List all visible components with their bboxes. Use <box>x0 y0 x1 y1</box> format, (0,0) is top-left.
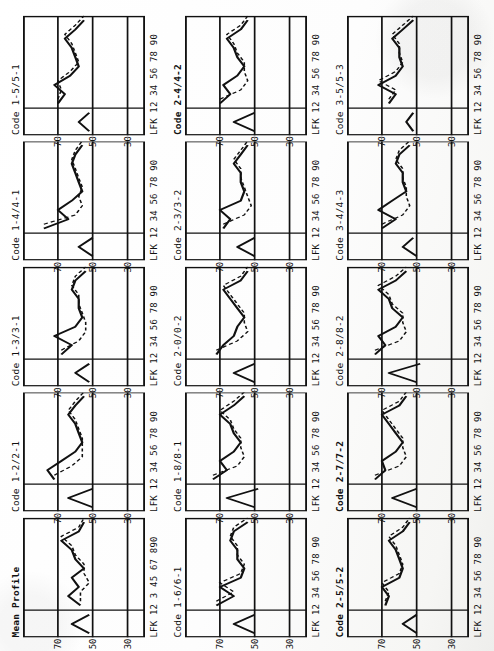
figure-rotated-container: Mean Profile305070LFK 12 3 45 67 890Code… <box>0 0 494 651</box>
panel-title: Code 2-7/7-2 <box>334 440 345 511</box>
chart-panel: Code 2-3/3-2305070LFK 12 34 56 78 90 <box>172 141 322 261</box>
profile-plot <box>23 517 145 637</box>
plot-area <box>185 392 307 512</box>
chart-panel: Code 2-4/4-2305070LFK 12 34 56 78 90 <box>172 15 322 135</box>
plot-area <box>347 517 469 637</box>
panel-title: Mean Profile <box>10 566 21 637</box>
y-tick-label: 50 <box>88 638 97 649</box>
profile-plot <box>23 141 145 261</box>
panel-title: Code 1-4/4-1 <box>10 189 21 260</box>
plot-area <box>23 266 145 386</box>
plot-area <box>23 517 145 637</box>
chart-panel: Code 3-5/5-3305070LFK 12 34 56 78 90 <box>334 15 484 135</box>
chart-panel: Mean Profile305070LFK 12 3 45 67 890 <box>10 517 160 637</box>
plot-area <box>185 517 307 637</box>
profile-plot <box>347 517 469 637</box>
plot-area <box>347 141 469 261</box>
panel-title: Code 1-8/8-1 <box>172 440 183 511</box>
profile-plot <box>185 15 307 135</box>
plot-area <box>347 392 469 512</box>
y-tick-label: 70 <box>215 638 224 649</box>
profile-plot <box>23 15 145 135</box>
plot-area <box>347 266 469 386</box>
profile-plot <box>185 392 307 512</box>
chart-panel: Code 2-5/5-2305070LFK 12 34 56 78 90 <box>334 517 484 637</box>
plot-area <box>23 392 145 512</box>
chart-panel: Code 3-4/4-3305070LFK 12 34 56 78 90 <box>334 141 484 261</box>
x-axis-label: LFK 12 34 56 78 90 <box>149 159 160 260</box>
chart-panel: Code 1-4/4-1305070LFK 12 34 56 78 90 <box>10 141 160 261</box>
y-tick-label: 30 <box>447 638 456 649</box>
chart-panel: Code 1-6/6-1305070LFK 12 34 56 78 90 <box>172 517 322 637</box>
x-axis-label: LFK 12 34 56 78 90 <box>311 33 322 134</box>
profile-plot <box>185 141 307 261</box>
y-tick-label: 70 <box>53 638 62 649</box>
panel-title: Code 2-4/4-2 <box>172 64 183 135</box>
y-tick-label: 70 <box>377 638 386 649</box>
y-tick-label: 30 <box>285 638 294 649</box>
x-axis-label: LFK 12 34 56 78 90 <box>149 33 160 134</box>
chart-panel: Code 1-8/8-1305070LFK 12 34 56 78 90 <box>172 392 322 512</box>
panel-title: Code 2-5/5-2 <box>334 566 345 637</box>
chart-panel: Code 2-7/7-2305070LFK 12 34 56 78 90 <box>334 392 484 512</box>
panel-title: Code 1-2/2-1 <box>10 440 21 511</box>
small-multiples-grid: Mean Profile305070LFK 12 3 45 67 890Code… <box>10 15 484 637</box>
panel-title: Code 2-8/8-2 <box>334 315 345 386</box>
plot-area <box>347 15 469 135</box>
panel-title: Code 2-3/3-2 <box>172 189 183 260</box>
plot-area <box>23 15 145 135</box>
x-axis-label: LFK 12 34 56 78 90 <box>311 159 322 260</box>
chart-panel: Code 2-8/8-2305070LFK 12 34 56 78 90 <box>334 266 484 386</box>
plot-area <box>185 266 307 386</box>
chart-panel: Code 2-0/0-2305070LFK 12 34 56 78 90 <box>172 266 322 386</box>
x-axis-label: LFK 12 34 56 78 90 <box>311 285 322 386</box>
plot-area <box>185 141 307 261</box>
profile-plot <box>185 266 307 386</box>
profile-plot <box>185 517 307 637</box>
panel-title: Code 1-6/6-1 <box>172 566 183 637</box>
panel-title: Code 2-0/0-2 <box>172 315 183 386</box>
profile-plot <box>347 15 469 135</box>
panel-title: Code 3-4/4-3 <box>334 189 345 260</box>
x-axis-label: LFK 12 34 56 78 90 <box>311 536 322 637</box>
x-axis-label: LFK 12 34 56 78 90 <box>311 410 322 511</box>
scanned-page: Mean Profile305070LFK 12 3 45 67 890Code… <box>0 0 494 651</box>
x-axis-label: LFK 12 34 56 78 90 <box>473 159 484 260</box>
profile-plot <box>23 392 145 512</box>
chart-panel: Code 1-5/5-1305070LFK 12 34 56 78 90 <box>10 15 160 135</box>
x-axis-label: LFK 12 3 45 67 890 <box>149 536 160 637</box>
plot-area <box>185 15 307 135</box>
chart-panel: Code 1-2/2-1305070LFK 12 34 56 78 90 <box>10 392 160 512</box>
x-axis-label: LFK 12 34 56 78 90 <box>473 536 484 637</box>
x-axis-label: LFK 12 34 56 78 90 <box>149 285 160 386</box>
profile-plot <box>23 266 145 386</box>
profile-plot <box>347 141 469 261</box>
plot-area <box>23 141 145 261</box>
profile-plot <box>347 392 469 512</box>
x-axis-label: LFK 12 34 56 78 90 <box>473 285 484 386</box>
panel-title: Code 1-5/5-1 <box>10 64 21 135</box>
chart-panel: Code 1-3/3-1305070LFK 12 34 56 78 90 <box>10 266 160 386</box>
x-axis-label: LFK 12 34 56 78 90 <box>473 33 484 134</box>
x-axis-label: LFK 12 34 56 78 90 <box>149 410 160 511</box>
panel-title: Code 1-3/3-1 <box>10 315 21 386</box>
y-tick-label: 30 <box>123 638 132 649</box>
y-tick-label: 50 <box>250 638 259 649</box>
panel-title: Code 3-5/5-3 <box>334 64 345 135</box>
y-tick-label: 50 <box>412 638 421 649</box>
x-axis-label: LFK 12 34 56 78 90 <box>473 410 484 511</box>
profile-plot <box>347 266 469 386</box>
